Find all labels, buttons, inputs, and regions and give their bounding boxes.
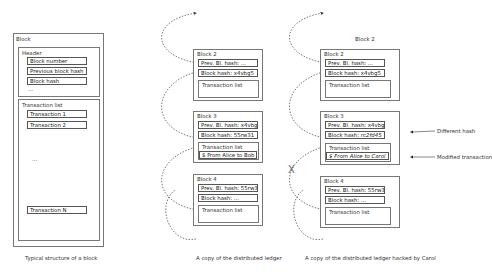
previous-block-hash-field: Previous block hash: [27, 67, 87, 75]
block-hash-field: Block hash: [27, 77, 87, 85]
block-structure-caption: Typical structure of a block: [25, 255, 97, 261]
modified-transaction-annotation: Modified transaction: [437, 155, 492, 160]
ledger-block-2-title: Block 2: [197, 52, 217, 57]
hacked-block-3-tx: $ From Alice to Carol: [326, 152, 389, 160]
hacked-caption: A copy of the distributed ledger hacked …: [305, 255, 436, 261]
ledger-block-3-prev-hash: Prev. Bl. hash: x4vbg5: [198, 121, 258, 129]
ledger-block-4-tx-title: Transaction list: [202, 208, 242, 213]
ledger-block-2-tx-title: Transaction list: [202, 83, 242, 88]
hacked-block-4-prev-hash: Prev. Bl. hash: 55rw31: [325, 186, 385, 194]
hacked-block-3-hash: Block hash: rc2fd45: [325, 131, 385, 139]
ledger-block-3-title: Block 3: [197, 114, 217, 119]
header-ellipsis: ...: [28, 87, 33, 92]
hacked-block-2-prev-hash: Prev. Bl. hash: ...: [325, 59, 385, 67]
ledger-block-3-hash: Block hash: 55rw31: [198, 131, 258, 139]
transaction-2-field: Transaction 2: [27, 121, 87, 129]
ledger-block-2-prev-hash: Prev. Bl. hash: ...: [198, 59, 258, 67]
hacked-block-2-title: Block 2: [324, 52, 344, 57]
hacked-block-4-hash: Block hash: ...: [325, 196, 385, 204]
ledger-block-3-tx: $ From Alice to Bob: [199, 151, 257, 159]
header-title: Header: [22, 51, 42, 56]
different-hash-annotation: Different hash: [437, 129, 475, 134]
transaction-1-field: Transaction 1: [27, 110, 87, 118]
hacked-block-4-tx-title: Transaction list: [329, 210, 369, 215]
ledger-block-2-hash: Block hash: x4vbg5: [198, 69, 258, 77]
block-number-field: Block number: [27, 57, 87, 65]
block-structure-title: Block: [16, 37, 31, 42]
hacked-block-3-hash-value: rc2fd45: [361, 132, 382, 138]
ledger-caption: A copy of the distributed ledger: [196, 255, 282, 261]
hacked-block-3-title: Block 3: [324, 114, 344, 119]
transaction-ellipsis: ...: [32, 157, 37, 162]
transaction-list-title: Transaction list: [22, 103, 62, 108]
hacked-block-3-prev-hash: Prev. Bl. hash: x4vbg5: [325, 121, 385, 129]
hacked-block-3-hash-label: Block hash:: [328, 132, 361, 138]
hacked-block-2-hash: Block hash: x4vbg5: [325, 69, 385, 77]
hacked-block-2-tx-title: Transaction list: [329, 83, 369, 88]
ledger-block-4-prev-hash: Prev. Bl. hash: 55rw31: [198, 184, 258, 192]
ledger-block-3-tx-title: Transaction list: [202, 145, 242, 150]
hacked-block-3-tx-title: Transaction list: [329, 146, 369, 151]
hacked-block-4-title: Block 4: [324, 179, 344, 184]
hacked-top-label: Block 2: [355, 37, 375, 42]
ledger-block-4-title: Block 4: [197, 177, 217, 182]
ledger-block-4-hash: Block hash: ...: [198, 194, 258, 202]
transaction-n-field: Transaction N: [27, 206, 87, 214]
broken-link-mark: X: [288, 165, 295, 175]
